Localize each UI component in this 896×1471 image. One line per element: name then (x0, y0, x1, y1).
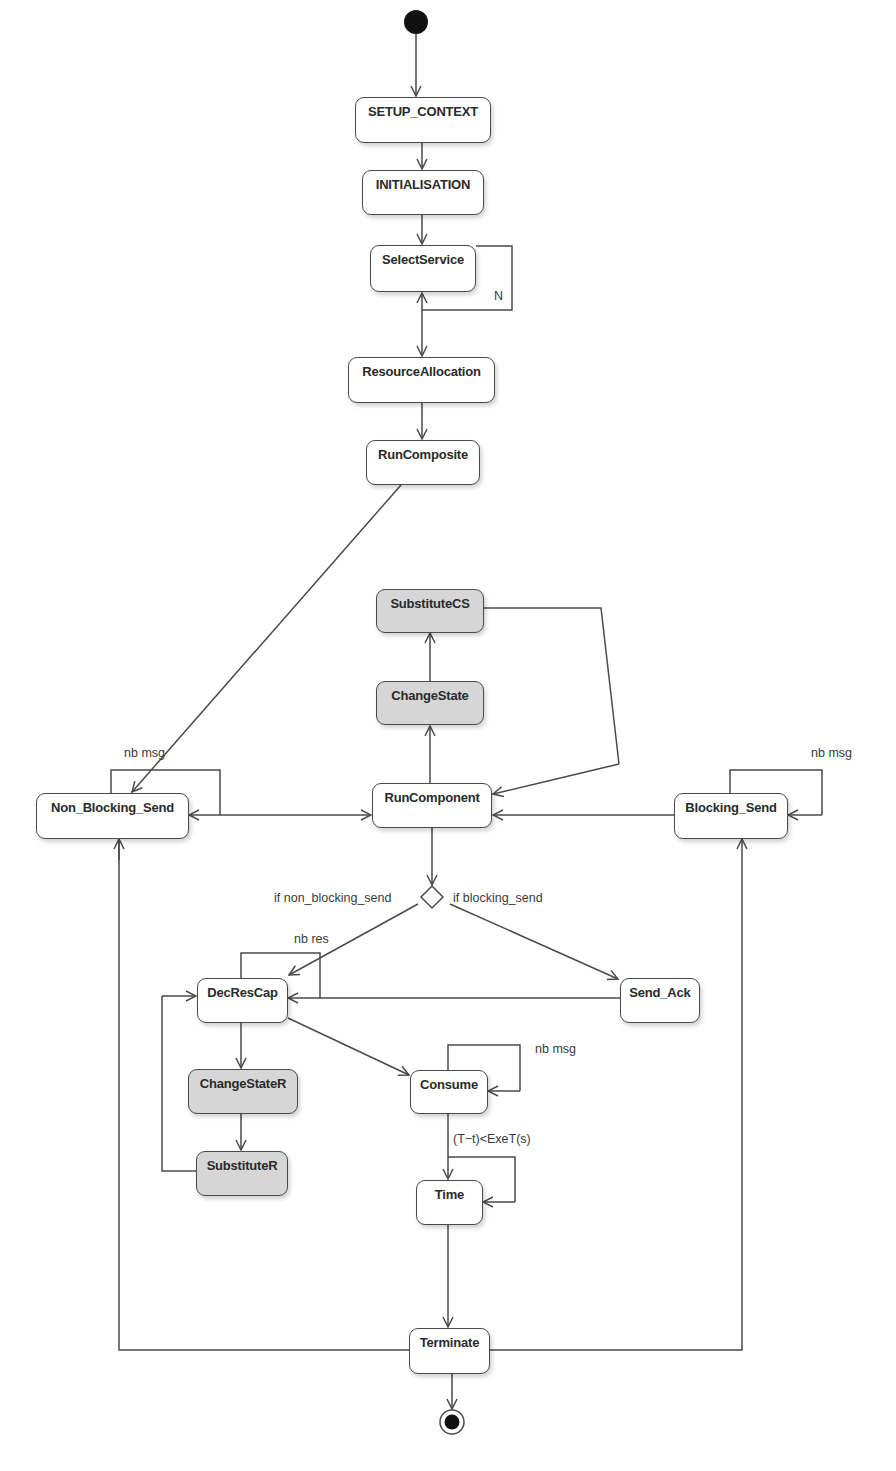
state-label: DecResCap (207, 985, 277, 1000)
state-time: Time (416, 1180, 483, 1225)
initial-node-icon (404, 10, 428, 34)
state-substitute-cs: SubstituteCS (376, 589, 484, 633)
state-label: Consume (420, 1077, 478, 1092)
state-label: ChangeStateR (200, 1076, 286, 1091)
guard-blocking-send: if blocking_send (453, 891, 543, 905)
state-label: RunComposite (378, 447, 468, 462)
state-initialisation: INITIALISATION (362, 170, 484, 215)
state-run-component: RunComponent (372, 783, 492, 828)
loop-label-nb-res: nb res (294, 932, 329, 946)
state-dec-res-cap: DecResCap (197, 978, 288, 1023)
state-change-state-r: ChangeStateR (188, 1069, 298, 1114)
state-label: RunComponent (384, 790, 479, 805)
loop-label-consume: nb msg (535, 1042, 576, 1056)
state-change-state: ChangeState (376, 681, 484, 725)
loop-label-n: N (494, 289, 503, 303)
state-label: INITIALISATION (376, 177, 470, 192)
state-label: SubstituteR (207, 1158, 278, 1173)
state-blocking-send: Blocking_Send (674, 793, 788, 839)
state-label: SubstituteCS (390, 596, 469, 611)
state-label: SelectService (382, 252, 464, 267)
state-non-blocking-send: Non_Blocking_Send (36, 793, 189, 839)
loop-label-blocking: nb msg (811, 746, 852, 760)
state-consume: Consume (410, 1070, 488, 1114)
state-send-ack: Send_Ack (620, 978, 700, 1023)
state-run-composite: RunComposite (366, 440, 480, 485)
guard-non-blocking-send: if non_blocking_send (274, 891, 391, 905)
state-label: ResourceAllocation (362, 364, 481, 379)
state-substitute-r: SubstituteR (196, 1151, 288, 1196)
state-label: Time (435, 1187, 464, 1202)
state-terminate: Terminate (409, 1328, 490, 1374)
state-label: Non_Blocking_Send (51, 800, 174, 815)
state-label: Send_Ack (629, 985, 690, 1000)
guard-time-condition: (T−t)<ExeT(s) (453, 1132, 531, 1146)
state-select-service: SelectService (370, 245, 476, 292)
state-label: Terminate (420, 1335, 479, 1350)
decision-node-icon (421, 886, 443, 908)
state-label: Blocking_Send (685, 800, 776, 815)
state-label: SETUP_CONTEXT (368, 104, 478, 119)
state-resource-allocation: ResourceAllocation (348, 357, 495, 403)
final-node-icon (445, 1415, 460, 1430)
connectors-layer (0, 0, 896, 1471)
loop-label-non-blocking: nb msg (124, 746, 165, 760)
activity-diagram: SETUP_CONTEXT INITIALISATION SelectServi… (0, 0, 896, 1471)
state-setup-context: SETUP_CONTEXT (355, 97, 491, 143)
state-label: ChangeState (391, 688, 468, 703)
